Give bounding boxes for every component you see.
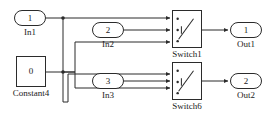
block-diagram-canvas: 1 In1 2 In2 0 Constant4 3 In3 (0, 0, 268, 117)
outport-out2-shape: 2 (230, 73, 262, 89)
inport-in1-label: In1 (24, 28, 36, 37)
constant4-label: Constant4 (13, 89, 50, 98)
switch6-label: Switch6 (172, 102, 202, 111)
inport-in1-shape: 1 (14, 10, 46, 26)
block-switch6[interactable]: Switch6 (172, 62, 202, 100)
inport-in3-number: 3 (106, 77, 111, 86)
switch6-shape (172, 62, 202, 100)
constant4-value: 0 (29, 67, 34, 76)
switch1-lever-icon (173, 11, 201, 47)
switch1-label: Switch1 (172, 50, 202, 59)
block-inport-in1[interactable]: 1 In1 (14, 10, 46, 26)
inport-in2-label: In2 (102, 40, 114, 49)
outport-out1-label: Out1 (237, 40, 255, 49)
block-outport-out1[interactable]: 1 Out1 (230, 22, 262, 38)
outport-out2-number: 2 (244, 77, 249, 86)
junction-dot-in1 (61, 16, 65, 20)
wire-constant4-to-switch1 (63, 42, 170, 72)
block-constant4[interactable]: 0 Constant4 (16, 56, 46, 87)
inport-in3-shape: 3 (92, 73, 124, 89)
inport-in2-shape: 2 (92, 22, 124, 38)
block-switch1[interactable]: Switch1 (172, 10, 202, 48)
inport-in2-number: 2 (106, 26, 111, 35)
inport-in1-number: 1 (28, 14, 33, 23)
inport-in3-label: In3 (102, 91, 114, 100)
constant4-shape: 0 (16, 56, 46, 87)
outport-out1-number: 1 (244, 26, 249, 35)
block-inport-in3[interactable]: 3 In3 (92, 73, 124, 89)
outport-out1-shape: 1 (230, 22, 262, 38)
switch6-lever-icon (173, 63, 201, 99)
switch1-shape (172, 10, 202, 48)
block-inport-in2[interactable]: 2 In2 (92, 22, 124, 38)
outport-out2-label: Out2 (237, 91, 255, 100)
block-outport-out2[interactable]: 2 Out2 (230, 73, 262, 89)
